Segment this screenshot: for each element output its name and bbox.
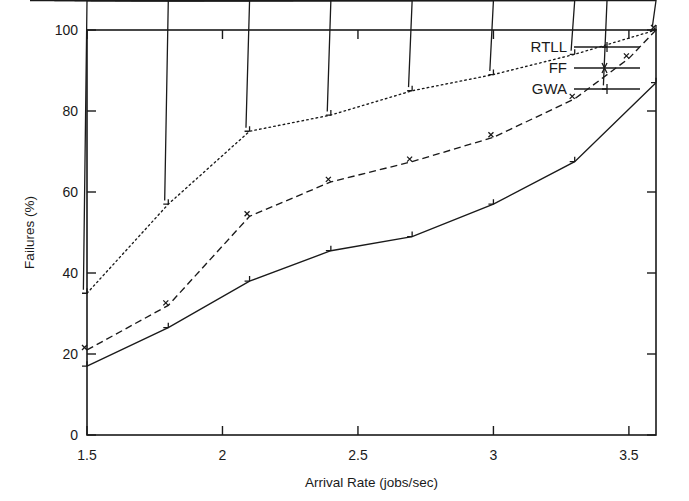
data-point-marker [54,1,574,55]
legend-label-rtll: RTLL [531,38,567,55]
data-point-marker [131,1,249,132]
data-point-marker [91,1,412,91]
data-series-group [30,1,656,367]
data-point-marker [407,232,412,237]
data-point-marker [163,323,168,328]
data-point-marker [245,211,250,216]
series-ff [82,25,656,350]
x-tick-label: 2.5 [348,447,368,463]
chart-legend: RTLLFFGWA [531,1,640,97]
x-tick-label: 2 [219,447,227,463]
data-point-marker [163,1,204,205]
data-point-marker [488,132,493,137]
x-tick-label: 3 [490,447,498,463]
y-tick-label: 20 [62,346,78,362]
chart-canvas: 020406080100 1.522.533.5 RTLLFFGWA Arriv… [0,0,689,501]
y-tick-label: 80 [62,103,78,119]
plot-frame [87,30,656,435]
data-point-marker [570,94,575,99]
data-point-marker [570,157,575,162]
data-point-marker [82,1,293,294]
series-rtll [82,78,656,367]
data-point-marker [30,1,656,30]
data-point-marker [488,199,493,204]
y-tick-label: 100 [55,22,79,38]
data-point-marker [75,1,494,75]
series-line-rtll [87,83,656,367]
y-tick-label: 40 [62,265,78,281]
y-tick-label: 60 [62,184,78,200]
x-tick-label: 1.5 [77,447,97,463]
data-point-marker [624,53,629,58]
legend-label-ff: FF [549,59,567,76]
data-point-marker [407,157,412,162]
y-axis-title: Failures (%) [22,196,37,269]
x-tick-label: 3.5 [619,447,639,463]
data-point-marker [245,276,250,281]
data-point-marker [326,246,331,251]
x-axis-title: Arrival Rate (jobs/sec) [305,475,438,490]
data-point-marker [115,1,331,115]
chart-figure: 020406080100 1.522.533.5 RTLLFFGWA Arriv… [0,0,689,501]
plot-border [87,30,656,435]
series-line-ff [87,30,656,350]
data-point-marker [326,177,331,182]
data-point-marker [163,300,168,305]
legend-label-gwa: GWA [532,80,567,97]
y-tick-label: 0 [70,427,78,443]
